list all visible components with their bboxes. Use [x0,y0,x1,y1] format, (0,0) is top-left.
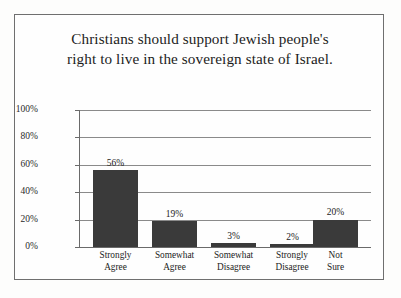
bar-value-somewhat-disagree: 3% [211,231,256,241]
y-axis [79,110,80,247]
chart-page: Christians should support Jewish people'… [0,0,401,298]
gridline-80 [79,137,371,138]
y-tick-label-60: 60% [0,159,38,169]
y-tick-40 [75,192,79,193]
y-tick-label-0: 0% [0,241,38,251]
bar-somewhat-disagree[interactable] [211,243,256,247]
bar-somewhat-agree[interactable] [152,221,197,247]
bar-value-somewhat-agree: 19% [152,209,197,219]
gridline-100 [79,110,371,111]
y-tick-0 [75,247,79,248]
chart-title-line-1: Christians should support Jewish people'… [33,29,367,49]
x-category-strongly-agree: Strongly Agree [85,250,146,273]
y-tick-label-100: 100% [0,104,38,114]
bar-value-strongly-agree: 56% [93,158,138,168]
y-tick-20 [75,220,79,221]
x-category-somewhat-disagree: Somewhat Disagree [200,250,267,273]
bar-value-strongly-disagree: 2% [270,232,315,242]
bar-strongly-agree[interactable] [93,170,138,247]
y-tick-100 [75,110,79,111]
x-category-not-sure: Not Sure [310,250,361,273]
x-category-somewhat-agree: Somewhat Agree [141,250,208,273]
plot-area: 56% 19% 3% 2% 20% Strongly Agree Somewha… [79,110,371,247]
x-axis [79,247,371,248]
y-tick-label-80: 80% [0,131,38,141]
bar-value-not-sure: 20% [313,207,358,217]
bar-strongly-disagree[interactable] [270,244,315,247]
chart-frame: Christians should support Jewish people'… [14,14,384,280]
y-tick-80 [75,137,79,138]
bar-not-sure[interactable] [313,220,358,247]
y-tick-label-20: 20% [0,214,38,224]
chart-title: Christians should support Jewish people'… [33,29,367,69]
y-tick-60 [75,165,79,166]
y-tick-label-40: 40% [0,186,38,196]
chart-title-line-2: right to live in the sovereign state of … [33,49,367,69]
